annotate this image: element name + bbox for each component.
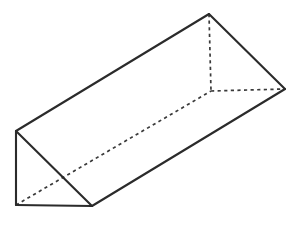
- front-bottom-base-edge: [16, 205, 92, 206]
- figure-container: [0, 0, 301, 227]
- triangular-prism-figure: [0, 0, 301, 227]
